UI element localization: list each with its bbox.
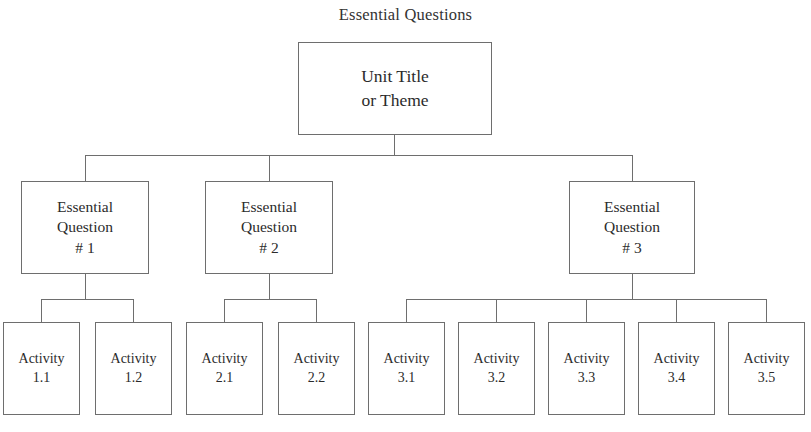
node-activity-2-1-label: Activity 2.1 xyxy=(202,350,248,387)
node-activity-1-2-label: Activity 1.2 xyxy=(111,350,157,387)
node-activity-3-2-label: Activity 3.2 xyxy=(474,350,520,387)
connector-drop-eq1 xyxy=(85,155,86,182)
connector-drop-eq3 xyxy=(632,155,633,182)
diagram-canvas: Essential Questions Unit Title or Theme … xyxy=(0,0,811,432)
connector-root-stem xyxy=(394,135,395,156)
node-activity-3-4-label: Activity 3.4 xyxy=(654,350,700,387)
node-unit-title[interactable]: Unit Title or Theme xyxy=(298,42,492,135)
page-title: Essential Questions xyxy=(0,5,811,25)
connector-eq2-bus xyxy=(224,299,316,300)
node-essential-question-3[interactable]: Essential Question # 3 xyxy=(569,181,695,274)
node-activity-1-2[interactable]: Activity 1.2 xyxy=(95,322,172,415)
connector-drop-eq2 xyxy=(269,155,270,182)
node-activity-3-3-label: Activity 3.3 xyxy=(564,350,610,387)
connector-drop-act-1-1 xyxy=(41,299,42,322)
connector-drop-act-3-3 xyxy=(586,299,587,322)
node-essential-question-2-label: Essential Question # 2 xyxy=(241,197,297,258)
connector-drop-act-1-2 xyxy=(133,299,134,322)
node-activity-3-1[interactable]: Activity 3.1 xyxy=(368,322,445,415)
node-activity-3-2[interactable]: Activity 3.2 xyxy=(458,322,535,415)
connector-drop-act-3-4 xyxy=(676,299,677,322)
node-activity-2-1[interactable]: Activity 2.1 xyxy=(186,322,263,415)
connector-drop-act-2-1 xyxy=(224,299,225,322)
node-activity-3-5-label: Activity 3.5 xyxy=(744,350,790,387)
connector-eq2-stem xyxy=(269,274,270,300)
node-unit-title-label: Unit Title or Theme xyxy=(361,65,429,111)
node-essential-question-1-label: Essential Question # 1 xyxy=(57,197,113,258)
node-activity-2-2-label: Activity 2.2 xyxy=(294,350,340,387)
node-activity-3-3[interactable]: Activity 3.3 xyxy=(548,322,625,415)
connector-question-bus xyxy=(85,155,633,156)
connector-drop-act-3-1 xyxy=(406,299,407,322)
clipped-footer-text xyxy=(0,427,811,432)
node-activity-1-1[interactable]: Activity 1.1 xyxy=(3,322,80,415)
node-activity-3-5[interactable]: Activity 3.5 xyxy=(728,322,805,415)
connector-drop-act-3-5 xyxy=(766,299,767,322)
connector-drop-act-2-2 xyxy=(316,299,317,322)
connector-eq3-stem xyxy=(632,274,633,300)
node-activity-1-1-label: Activity 1.1 xyxy=(19,350,65,387)
node-essential-question-2[interactable]: Essential Question # 2 xyxy=(205,181,333,274)
node-activity-2-2[interactable]: Activity 2.2 xyxy=(278,322,355,415)
node-activity-3-1-label: Activity 3.1 xyxy=(384,350,430,387)
connector-eq1-stem xyxy=(85,274,86,300)
connector-eq1-bus xyxy=(41,299,133,300)
node-essential-question-3-label: Essential Question # 3 xyxy=(604,197,660,258)
node-essential-question-1[interactable]: Essential Question # 1 xyxy=(21,181,149,274)
connector-drop-act-3-2 xyxy=(496,299,497,322)
node-activity-3-4[interactable]: Activity 3.4 xyxy=(638,322,715,415)
